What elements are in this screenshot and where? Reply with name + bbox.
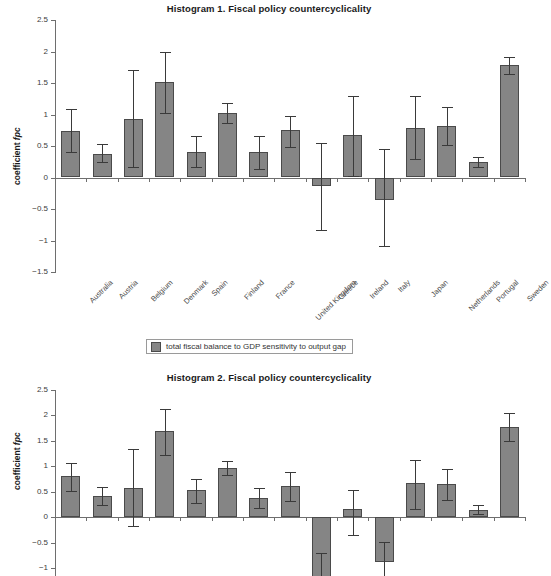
error-bar <box>196 136 197 168</box>
error-bar-cap-upper <box>191 479 202 480</box>
x-axis-category-label: Finland <box>243 278 267 302</box>
error-bar-cap-upper <box>285 116 296 117</box>
x-axis-zero-line <box>55 517 525 518</box>
error-bar-cap-upper <box>222 461 233 462</box>
error-bar-cap-upper <box>442 107 453 108</box>
y-axis-tick-label: −1 <box>15 563 48 572</box>
error-bar <box>447 469 448 500</box>
error-bar-cap-lower <box>410 159 421 160</box>
error-bar-cap-lower <box>316 230 327 231</box>
error-bar <box>353 490 354 535</box>
chart-1-y-axis-label-italic: fpc <box>12 127 22 140</box>
error-bar-cap-upper <box>473 505 484 506</box>
error-bar-cap-upper <box>66 109 77 110</box>
x-axis-tick <box>462 178 463 182</box>
y-axis-tick-label: −1.5 <box>15 267 48 276</box>
error-bar-cap-lower <box>222 123 233 124</box>
error-bar <box>133 449 134 525</box>
error-bar <box>102 144 103 162</box>
error-bar-cap-upper <box>410 96 421 97</box>
x-axis-tick <box>118 517 119 521</box>
error-bar-cap-lower <box>504 74 515 75</box>
x-axis-tick <box>86 517 87 521</box>
y-axis-tick-label: 1.5 <box>15 78 48 87</box>
x-axis-category-label: Greece <box>337 278 361 302</box>
error-bar-cap-lower <box>473 514 484 515</box>
y-axis-tick-label: 1 <box>15 461 48 470</box>
error-bar-cap-lower <box>410 509 421 510</box>
error-bar-cap-lower <box>191 167 202 168</box>
x-axis-tick <box>337 517 338 521</box>
x-axis-category-label: Ireland <box>367 278 390 301</box>
error-bar-cap-lower <box>160 455 171 456</box>
x-axis-tick <box>400 178 401 182</box>
error-bar-cap-lower <box>254 169 265 170</box>
y-axis-tick-label: 1 <box>15 110 48 119</box>
error-bar-cap-upper <box>379 542 390 543</box>
y-axis-tick-label: 2 <box>15 410 48 419</box>
y-axis-tick <box>51 52 56 53</box>
error-bar-cap-lower <box>379 246 390 247</box>
error-bar-cap-upper <box>97 487 108 488</box>
y-axis-tick-label: −0.5 <box>15 204 48 213</box>
y-axis-tick <box>51 466 56 467</box>
error-bar-cap-upper <box>191 136 202 137</box>
x-axis-tick <box>494 178 495 182</box>
error-bar-cap-upper <box>410 460 421 461</box>
x-axis-tick <box>431 517 432 521</box>
error-bar-cap-lower <box>442 500 453 501</box>
error-bar-cap-lower <box>504 441 515 442</box>
x-axis-tick <box>368 178 369 182</box>
y-axis-tick-label: 1.5 <box>15 436 48 445</box>
x-axis-category-label: Sweden <box>525 278 551 304</box>
error-bar-cap-upper <box>442 469 453 470</box>
x-axis-category-label: Japan <box>429 278 450 299</box>
x-axis-tick <box>306 517 307 521</box>
y-axis-tick-label: −0.5 <box>15 538 48 547</box>
x-axis-tick <box>55 517 56 521</box>
error-bar-cap-lower <box>254 508 265 509</box>
legend-label: total fiscal balance to GDP sensitivity … <box>166 342 346 351</box>
x-axis-tick <box>212 517 213 521</box>
y-axis-tick-label: 2 <box>15 47 48 56</box>
chart-1-plot-area: 2.521.510.50−0.5−1−1.5 <box>55 20 525 272</box>
error-bar <box>71 109 72 152</box>
error-bar-cap-lower <box>442 145 453 146</box>
error-bar <box>509 57 510 75</box>
error-bar <box>290 116 291 146</box>
y-axis-tick <box>51 115 56 116</box>
y-axis-tick <box>51 390 56 391</box>
y-axis-tick <box>51 568 56 569</box>
error-bar <box>478 157 479 168</box>
error-bar-cap-upper <box>316 143 327 144</box>
chart-2-title: Histogram 2. Fiscal policy countercyclic… <box>0 372 538 383</box>
error-bar-cap-lower <box>66 491 77 492</box>
x-axis-tick <box>149 178 150 182</box>
x-axis-category-label: Belgium <box>149 278 175 304</box>
error-bar <box>321 553 322 576</box>
x-axis-tick <box>180 178 181 182</box>
y-axis-tick <box>51 272 56 273</box>
error-bar <box>509 413 510 441</box>
x-axis-tick <box>400 517 401 521</box>
chart-1-title: Histogram 1. Fiscal policy countercyclic… <box>0 3 538 14</box>
y-axis-tick <box>51 492 56 493</box>
error-bar <box>133 70 134 167</box>
x-axis-tick <box>337 178 338 182</box>
error-bar-cap-upper <box>348 490 359 491</box>
y-axis-tick <box>51 415 56 416</box>
error-bar <box>478 505 479 515</box>
error-bar <box>415 96 416 159</box>
error-bar <box>102 487 103 505</box>
x-axis-tick <box>306 178 307 182</box>
y-axis-tick-label: 0.5 <box>15 487 48 496</box>
y-axis-tick-label: 0 <box>15 173 48 182</box>
x-axis-zero-line <box>55 178 525 179</box>
y-axis-tick <box>51 83 56 84</box>
y-axis-line <box>55 390 56 576</box>
error-bar-cap-lower <box>191 503 202 504</box>
y-axis-tick <box>51 241 56 242</box>
error-bar <box>71 463 72 491</box>
error-bar <box>165 409 166 455</box>
x-axis-tick <box>525 178 526 182</box>
